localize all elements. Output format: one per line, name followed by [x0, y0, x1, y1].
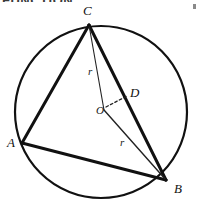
circle-geometry-figure: FUNCTION C A B D O r r [0, 0, 203, 211]
segment-OD-perpendicular-dashed [106, 96, 127, 107]
segment-CB [89, 25, 166, 180]
point-label-C: C [83, 4, 92, 17]
point-label-A: A [7, 136, 15, 149]
point-C-dot [87, 23, 90, 26]
point-label-O-center: O [96, 105, 104, 116]
segment-AB [22, 143, 166, 180]
point-A-dot [20, 141, 23, 144]
point-label-D: D [130, 86, 139, 99]
radius-label-CO: r [88, 66, 92, 77]
point-label-B: B [174, 182, 182, 195]
radius-label-OB: r [120, 137, 124, 148]
point-B-dot [164, 178, 167, 181]
segment-CA [22, 25, 89, 143]
